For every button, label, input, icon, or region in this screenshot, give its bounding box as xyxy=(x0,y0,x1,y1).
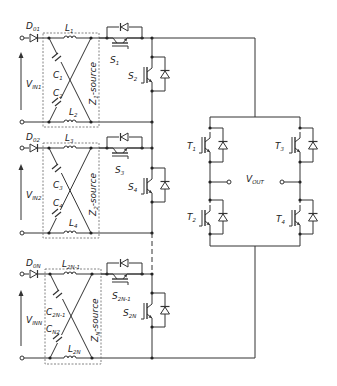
label-vout: VOUT xyxy=(246,174,265,185)
label-s2: S2 xyxy=(128,71,138,82)
diode-icon xyxy=(30,144,38,152)
igbt-switch-icon xyxy=(141,173,152,199)
label-s3: S3 xyxy=(115,165,125,176)
label-c2n-1: C2N-1 xyxy=(46,307,65,318)
z-source-module-n: D0N L2N-1 C2N-1 CN2 L2N VINN ZN-source S… xyxy=(19,258,256,364)
label-s2n-1: S2N-1 xyxy=(112,291,131,302)
diode-icon xyxy=(30,270,38,278)
output-terminal-left xyxy=(227,180,231,184)
z-source-module-2: D02 L3 C3 C4 L4 VIN2 Z2-source S3 S4 xyxy=(19,120,170,238)
label-d01: D01 xyxy=(26,21,40,32)
igbt-switch-icon xyxy=(289,205,300,231)
label-t1: T1 xyxy=(187,141,196,152)
diode-icon xyxy=(309,214,318,222)
label-t4: T4 xyxy=(276,214,286,225)
label-c1: C1 xyxy=(53,70,63,81)
label-l1: L1 xyxy=(65,23,74,34)
label-c4: C4 xyxy=(53,198,63,209)
h-bridge: T1 T2 T3 T4 VOUT xyxy=(187,117,318,246)
label-c3: C3 xyxy=(53,180,63,191)
diode-icon xyxy=(161,307,170,315)
label-cn2: CN2 xyxy=(46,324,60,335)
label-t2: T2 xyxy=(187,212,197,223)
input-terminal-bottom-1 xyxy=(20,120,24,124)
schematic-canvas: D01 L1 C1 C2 L2 VIN1 Z1-source S1 S2 xyxy=(0,0,337,386)
input-terminal-top-1 xyxy=(20,36,24,40)
label-c2: C2 xyxy=(53,88,63,99)
diode-icon xyxy=(161,182,170,190)
label-l2: L2 xyxy=(69,107,78,118)
label-l2n-1: L2N-1 xyxy=(62,259,80,270)
z-source-module-1: D01 L1 C1 C2 L2 VIN1 Z1-source S1 S2 xyxy=(19,21,170,127)
diode-icon xyxy=(161,71,170,79)
igbt-switch-icon xyxy=(289,132,300,158)
diode-icon xyxy=(309,142,318,150)
igbt-switch-icon xyxy=(107,148,133,159)
label-vinn: VINN xyxy=(26,315,42,326)
label-t3: T3 xyxy=(275,141,285,152)
igbt-switch-icon xyxy=(199,205,210,231)
label-z2-source: Z2-source xyxy=(88,173,99,217)
igbt-switch-icon xyxy=(141,62,152,88)
label-s1: S1 xyxy=(110,55,119,66)
diode-icon xyxy=(219,142,228,150)
igbt-switch-icon xyxy=(107,274,133,285)
label-s2n: S2N xyxy=(123,308,136,319)
circuit-diagram: D01 L1 C1 C2 L2 VIN1 Z1-source S1 S2 xyxy=(0,0,337,386)
label-l2n: L2N xyxy=(68,344,81,355)
label-z1-source: Z1-source xyxy=(88,62,99,106)
output-terminal-right xyxy=(280,180,284,184)
igbt-switch-icon xyxy=(141,298,152,324)
label-vin1: VIN1 xyxy=(26,79,41,90)
label-l3: L3 xyxy=(65,133,74,144)
diode-icon xyxy=(219,214,228,222)
label-zn-source: ZN-source xyxy=(90,298,101,343)
label-s4: S4 xyxy=(128,182,138,193)
igbt-switch-icon xyxy=(199,132,210,158)
label-d02: D02 xyxy=(26,132,40,143)
label-d0n: D0N xyxy=(26,258,41,269)
label-vin2: VIN2 xyxy=(26,190,42,201)
diode-icon xyxy=(30,34,38,42)
igbt-switch-icon xyxy=(107,38,133,49)
label-l4: L4 xyxy=(69,218,78,229)
